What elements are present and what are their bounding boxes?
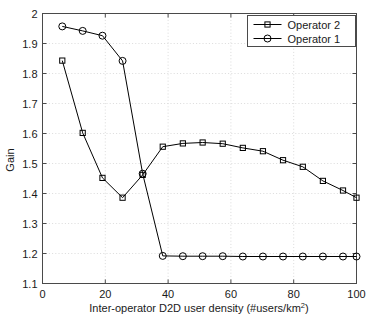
y-tick-label: 1.9 <box>22 38 37 50</box>
chart-figure: 1.11.21.31.41.51.61.71.81.92020406080100… <box>0 0 380 318</box>
x-axis-title-base: Inter-operator D2D user density (#users/… <box>89 302 301 314</box>
y-tick-label: 1.7 <box>22 98 37 110</box>
gain-vs-density-line-chart: 1.11.21.31.41.51.61.71.81.92020406080100… <box>0 0 380 318</box>
y-tick-label: 1.4 <box>22 188 37 200</box>
y-tick-label: 2 <box>31 8 37 20</box>
y-tick-label: 1.6 <box>22 128 37 140</box>
x-tick-label: 80 <box>288 288 300 300</box>
chart-legend[interactable]: Operator 2Operator 1 <box>248 16 356 47</box>
x-axis-title: Inter-operator D2D user density (#users/… <box>89 301 308 314</box>
y-axis-title: Gain <box>4 148 16 171</box>
y-tick-label: 1.3 <box>22 218 37 230</box>
x-tick-label: 20 <box>99 288 111 300</box>
y-tick-label: 1.8 <box>22 68 37 80</box>
x-axis-title-tail: ) <box>305 302 309 314</box>
x-tick-label: 0 <box>39 288 45 300</box>
x-tick-label: 100 <box>347 288 365 300</box>
y-tick-label: 1.2 <box>22 248 37 260</box>
x-tick-label: 60 <box>225 288 237 300</box>
figure-background <box>0 0 380 318</box>
legend-label[interactable]: Operator 2 <box>288 19 341 31</box>
x-tick-label: 40 <box>162 288 174 300</box>
y-tick-label: 1.5 <box>22 158 37 170</box>
y-tick-label: 1.1 <box>22 278 37 290</box>
legend-label[interactable]: Operator 1 <box>288 33 341 45</box>
